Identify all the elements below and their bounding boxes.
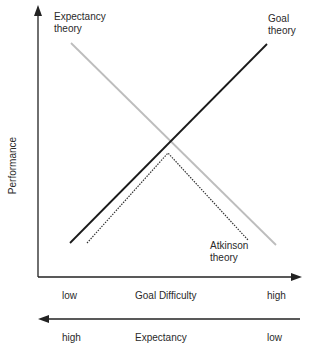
goal-theory-label: Goal theory [268,13,296,37]
y-axis-label: Performance [7,136,18,196]
x-high-label: high [267,290,286,302]
x-axis-arrow-icon [291,273,302,281]
atkinson-theory-line [87,153,248,243]
expectancy-low-label: low [267,332,282,344]
x-low-label: low [62,290,77,302]
chart-canvas [0,0,314,358]
expectancy-theory-line [71,43,276,245]
expectancy-axis-arrow-icon [38,315,49,323]
goal-theory-line [70,44,267,243]
expectancy-theory-label: Expectancy theory [54,11,106,35]
atkinson-theory-label: Atkinson theory [210,240,248,264]
y-axis-arrow-icon [34,5,42,16]
x-axis-title: Goal Difficulty [135,290,197,302]
expectancy-high-label: high [62,332,81,344]
expectancy-title: Expectancy [135,332,187,344]
